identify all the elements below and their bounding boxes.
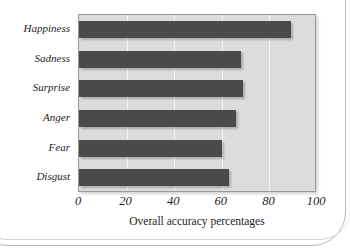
bar-row (79, 15, 315, 45)
bar-row (79, 104, 315, 134)
bar-row (79, 134, 315, 164)
x-tick-0: 0 (75, 194, 81, 209)
bar-anger (79, 110, 236, 127)
x-tick-20: 20 (119, 194, 132, 209)
bar-happiness (79, 21, 291, 38)
category-label-sadness: Sadness (35, 44, 70, 74)
category-label-anger: Anger (43, 103, 70, 133)
bar-row (79, 163, 315, 193)
x-tick-80: 80 (262, 194, 275, 209)
category-label-happiness: Happiness (24, 14, 70, 44)
x-tick-40: 40 (167, 194, 180, 209)
category-label-fear: Fear (49, 133, 70, 163)
bar-row (79, 45, 315, 75)
bar-row (79, 74, 315, 104)
x-tick-60: 60 (215, 194, 228, 209)
plot-area (78, 14, 316, 192)
x-axis-title: Overall accuracy percentages (78, 215, 316, 227)
bar-series (79, 15, 315, 191)
bar-fear (79, 140, 222, 157)
bar-disgust (79, 169, 229, 186)
x-tick-100: 100 (307, 194, 326, 209)
category-axis-labels: HappinessSadnessSurpriseAngerFearDisgust (0, 14, 74, 192)
category-label-disgust: Disgust (36, 162, 70, 192)
bar-surprise (79, 80, 243, 97)
x-axis-tick-labels: 020406080100 (78, 194, 316, 212)
category-label-surprise: Surprise (33, 73, 70, 103)
bar-sadness (79, 51, 241, 68)
